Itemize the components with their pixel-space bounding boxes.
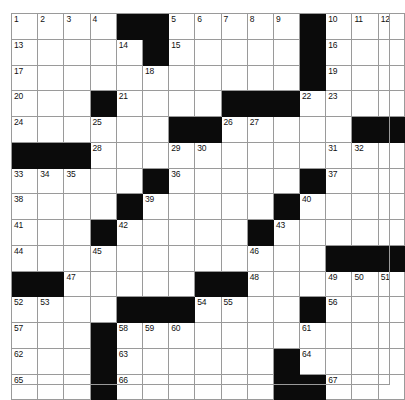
crossword-cell[interactable] [221,374,247,400]
crossword-cell[interactable]: 20 [12,91,38,117]
crossword-cell[interactable]: 35 [64,168,90,194]
crossword-cell[interactable] [169,194,195,220]
crossword-cell[interactable]: 18 [142,65,168,91]
crossword-cell[interactable]: 33 [12,168,38,194]
crossword-cell[interactable] [221,168,247,194]
crossword-cell[interactable] [195,91,221,117]
crossword-cell[interactable]: 51 [378,271,404,297]
crossword-cell[interactable] [195,220,221,246]
crossword-cell[interactable] [247,374,273,400]
crossword-cell[interactable]: 19 [326,65,352,91]
crossword-cell[interactable]: 16 [326,39,352,65]
crossword-cell[interactable]: 22 [300,91,326,117]
crossword-cell[interactable] [90,39,116,65]
crossword-cell[interactable] [300,142,326,168]
crossword-cell[interactable] [195,194,221,220]
crossword-cell[interactable]: 60 [169,323,195,349]
crossword-cell[interactable] [378,194,404,220]
crossword-cell[interactable] [195,245,221,271]
crossword-cell[interactable] [221,323,247,349]
crossword-cell[interactable] [247,297,273,323]
crossword-cell[interactable]: 45 [90,245,116,271]
crossword-cell[interactable] [116,65,142,91]
crossword-cell[interactable] [38,117,64,143]
crossword-cell[interactable] [169,374,195,400]
crossword-cell[interactable]: 50 [352,271,378,297]
crossword-cell[interactable] [195,374,221,400]
crossword-cell[interactable] [378,220,404,246]
crossword-cell[interactable]: 9 [273,14,299,40]
crossword-cell[interactable]: 14 [116,39,142,65]
crossword-cell[interactable]: 67 [326,374,352,400]
crossword-cell[interactable] [195,168,221,194]
crossword-cell[interactable]: 23 [326,91,352,117]
crossword-cell[interactable] [64,323,90,349]
crossword-cell[interactable] [90,65,116,91]
crossword-cell[interactable] [64,245,90,271]
crossword-cell[interactable] [116,271,142,297]
crossword-cell[interactable] [116,168,142,194]
crossword-cell[interactable] [221,220,247,246]
crossword-cell[interactable] [38,323,64,349]
crossword-cell[interactable] [273,245,299,271]
crossword-cell[interactable] [64,65,90,91]
crossword-cell[interactable]: 44 [12,245,38,271]
crossword-cell[interactable] [247,39,273,65]
crossword-cell[interactable] [64,220,90,246]
crossword-cell[interactable]: 38 [12,194,38,220]
crossword-cell[interactable]: 41 [12,220,38,246]
crossword-cell[interactable]: 58 [116,323,142,349]
crossword-cell[interactable] [326,194,352,220]
crossword-cell[interactable] [64,297,90,323]
crossword-cell[interactable] [352,168,378,194]
crossword-cell[interactable] [38,91,64,117]
crossword-cell[interactable]: 62 [12,348,38,374]
crossword-cell[interactable] [142,374,168,400]
crossword-cell[interactable] [378,374,404,400]
crossword-cell[interactable] [142,220,168,246]
crossword-cell[interactable] [64,374,90,400]
crossword-cell[interactable] [326,323,352,349]
crossword-cell[interactable] [142,117,168,143]
crossword-cell[interactable] [247,194,273,220]
crossword-cell[interactable]: 28 [90,142,116,168]
crossword-cell[interactable] [90,271,116,297]
crossword-cell[interactable] [90,297,116,323]
crossword-cell[interactable] [247,348,273,374]
crossword-cell[interactable]: 66 [116,374,142,400]
crossword-cell[interactable] [247,168,273,194]
crossword-cell[interactable]: 15 [169,39,195,65]
crossword-cell[interactable] [38,348,64,374]
crossword-cell[interactable]: 37 [326,168,352,194]
crossword-cell[interactable]: 46 [247,245,273,271]
crossword-cell[interactable]: 6 [195,14,221,40]
crossword-cell[interactable] [116,117,142,143]
crossword-cell[interactable] [169,271,195,297]
crossword-cell[interactable] [273,323,299,349]
crossword-cell[interactable] [221,348,247,374]
crossword-cell[interactable] [38,245,64,271]
crossword-cell[interactable]: 17 [12,65,38,91]
crossword-cell[interactable] [195,323,221,349]
crossword-cell[interactable]: 59 [142,323,168,349]
crossword-cell[interactable]: 65 [12,374,38,400]
crossword-cell[interactable]: 42 [116,220,142,246]
crossword-cell[interactable] [352,348,378,374]
crossword-cell[interactable] [90,194,116,220]
crossword-cell[interactable]: 32 [352,142,378,168]
crossword-cell[interactable] [300,220,326,246]
crossword-cell[interactable] [195,65,221,91]
crossword-cell[interactable]: 39 [142,194,168,220]
crossword-cell[interactable] [352,39,378,65]
crossword-cell[interactable] [64,194,90,220]
crossword-cell[interactable] [352,323,378,349]
crossword-cell[interactable] [326,348,352,374]
crossword-cell[interactable]: 13 [12,39,38,65]
crossword-cell[interactable]: 29 [169,142,195,168]
crossword-cell[interactable] [221,194,247,220]
crossword-cell[interactable] [142,91,168,117]
crossword-cell[interactable]: 56 [326,297,352,323]
crossword-cell[interactable]: 25 [90,117,116,143]
crossword-cell[interactable]: 8 [247,14,273,40]
crossword-cell[interactable] [378,297,404,323]
